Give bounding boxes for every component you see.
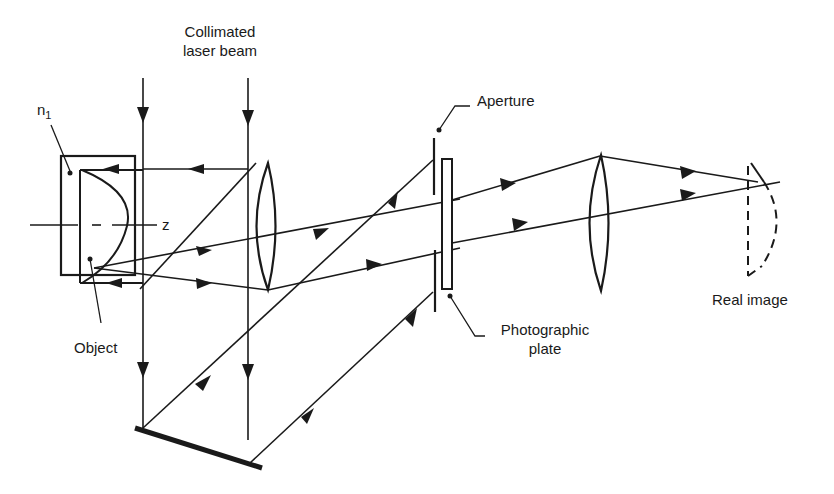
aperture-label: Aperture: [477, 91, 535, 110]
laser-beam-right: [242, 78, 254, 440]
z-axis-label: z: [162, 215, 170, 234]
optical-diagram: [0, 0, 834, 494]
lens-1: [257, 163, 276, 290]
laser-beam-left: [137, 78, 149, 428]
object-label: Object: [74, 338, 117, 357]
beam-label: Collimated laser beam: [160, 22, 280, 60]
photographic-plate: [442, 159, 452, 289]
real-image-plane: [748, 166, 762, 276]
beam-splitter: [140, 163, 256, 289]
mirror: [135, 428, 262, 468]
real-image-curve: [762, 182, 777, 266]
photographic-plate-label: Photographic plate: [490, 320, 600, 358]
lens-2: [590, 155, 609, 291]
n1-label: n1: [37, 100, 51, 125]
real-image-label: Real image: [712, 290, 788, 309]
